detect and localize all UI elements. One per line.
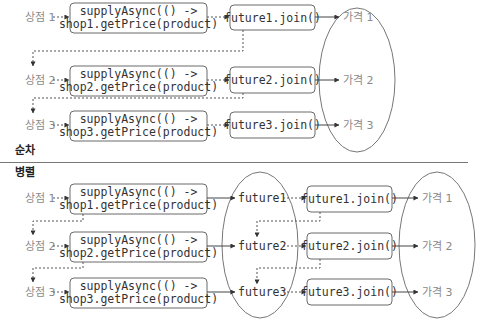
join-text: future3.join() bbox=[224, 118, 321, 132]
par-row-2: 상점 2 supplyAsync(() -> shop2.getPrice(pr… bbox=[25, 232, 453, 262]
seq-row-2: 상점 2 supplyAsync(() -> shop2.getPrice(pr… bbox=[25, 66, 374, 96]
task-line-1: supplyAsync(() -> bbox=[80, 233, 198, 247]
task-line-2: shop2.getPrice(product) bbox=[59, 246, 218, 260]
task-line-2: shop1.getPrice(product) bbox=[59, 17, 218, 31]
shop-label: 상점 3 bbox=[25, 286, 56, 299]
shop-label: 상점 2 bbox=[25, 74, 56, 87]
join-text: future2.join() bbox=[301, 239, 398, 253]
join-text: future2.join() bbox=[224, 73, 321, 87]
section-title-parallel: 병렬 bbox=[15, 165, 35, 179]
section-title-sequential: 순차 bbox=[15, 143, 36, 157]
shop-label: 상점 1 bbox=[25, 192, 56, 205]
sequence-connector bbox=[33, 30, 243, 66]
task-line-2: shop3.getPrice(product) bbox=[59, 292, 218, 306]
task-line-1: supplyAsync(() -> bbox=[80, 112, 198, 126]
shop-label: 상점 3 bbox=[25, 119, 56, 132]
task-line-2: shop2.getPrice(product) bbox=[59, 80, 218, 94]
join-text: future3.join() bbox=[301, 285, 398, 299]
sequential-section: 상점 1 supplyAsync(() -> shop1.getPrice(pr… bbox=[15, 3, 395, 157]
future-label: future3 bbox=[238, 285, 287, 299]
par-row-1: 상점 1 supplyAsync(() -> shop1.getPrice(pr… bbox=[25, 184, 453, 214]
join-text: future1.join() bbox=[224, 11, 321, 25]
task-line-1: supplyAsync(() -> bbox=[80, 279, 198, 293]
seq-row-3: 상점 3 supplyAsync(() -> shop3.getPrice(pr… bbox=[25, 111, 374, 141]
price-label: 가격 1 bbox=[343, 11, 374, 24]
parallel-section: 병렬 상점 1 supplyAsync(() -> shop1.getPrice… bbox=[15, 165, 475, 318]
shop-label: 상점 2 bbox=[25, 240, 56, 253]
task-line-1: supplyAsync(() -> bbox=[80, 67, 198, 81]
price-label: 가격 3 bbox=[422, 286, 453, 299]
task-line-2: shop1.getPrice(product) bbox=[59, 198, 218, 212]
price-label: 가격 2 bbox=[343, 74, 374, 87]
par-row-3: 상점 3 supplyAsync(() -> shop3.getPrice(pr… bbox=[25, 278, 453, 308]
shop-label: 상점 1 bbox=[25, 11, 56, 24]
future-label: future2 bbox=[238, 239, 286, 253]
future-label: future1 bbox=[238, 191, 287, 205]
price-label: 가격 1 bbox=[422, 192, 453, 205]
task-line-1: supplyAsync(() -> bbox=[80, 185, 198, 199]
seq-row-1: 상점 1 supplyAsync(() -> shop1.getPrice(pr… bbox=[25, 3, 374, 33]
join-text: future1.join() bbox=[301, 192, 398, 206]
task-line-1: supplyAsync(() -> bbox=[80, 4, 198, 18]
price-label: 가격 3 bbox=[343, 119, 374, 132]
task-line-2: shop3.getPrice(product) bbox=[59, 125, 218, 139]
price-label: 가격 2 bbox=[422, 240, 453, 253]
diagram-canvas: 상점 1 supplyAsync(() -> shop1.getPrice(pr… bbox=[0, 0, 484, 334]
